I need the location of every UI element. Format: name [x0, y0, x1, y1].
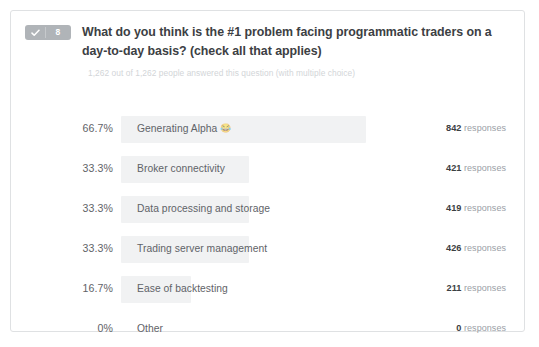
answer-label-text: Ease of backtesting	[137, 283, 228, 294]
answer-response-suffix: responses	[464, 283, 506, 293]
answer-response-suffix: responses	[464, 203, 506, 213]
answer-label-text: Trading server management	[137, 243, 267, 254]
answer-response-count: 426	[446, 243, 461, 253]
answer-response-suffix: responses	[464, 163, 506, 173]
answer-responses: 419 responses	[446, 195, 506, 222]
answer-row: 0% Other 0 responses	[11, 315, 524, 347]
answer-response-suffix: responses	[464, 123, 506, 133]
answer-responses: 211 responses	[446, 275, 506, 302]
smiley-face-icon: 😂	[220, 123, 231, 133]
answer-response-count: 842	[446, 123, 461, 133]
question-number: 8	[46, 25, 70, 40]
question-title: What do you think is the #1 problem faci…	[82, 23, 506, 60]
answer-row: 33.3% Broker connectivity 421 responses	[11, 155, 524, 195]
answer-label: Other	[137, 315, 163, 342]
question-subtitle: 1,262 out of 1,262 people answered this …	[88, 67, 506, 79]
answer-response-count: 421	[446, 163, 461, 173]
answer-row: 16.7% Ease of backtesting 211 responses	[11, 275, 524, 315]
answer-response-count: 419	[446, 203, 461, 213]
answer-label-text: Other	[137, 323, 163, 334]
question-header-row: 8 What do you think is the #1 problem fa…	[25, 23, 506, 60]
answer-percent: 16.7%	[51, 275, 113, 302]
answer-percent: 33.3%	[51, 195, 113, 222]
answer-label: Data processing and storage	[137, 195, 270, 222]
answer-response-suffix: responses	[464, 323, 506, 333]
survey-question-card: 8 What do you think is the #1 problem fa…	[10, 10, 525, 332]
check-icon	[26, 25, 45, 40]
answer-response-count: 211	[446, 283, 461, 293]
answer-label-text: Generating Alpha	[137, 123, 217, 134]
answer-label-text: Broker connectivity	[137, 163, 225, 174]
answer-row: 33.3% Data processing and storage 419 re…	[11, 195, 524, 235]
answer-responses: 426 responses	[446, 235, 506, 262]
answer-responses: 842 responses	[446, 115, 506, 142]
answer-label: Generating Alpha😂	[137, 115, 231, 142]
answer-response-suffix: responses	[464, 243, 506, 253]
question-number-badge: 8	[25, 25, 71, 40]
answer-rows: 66.7% Generating Alpha😂 842 responses 33…	[11, 115, 524, 347]
answer-responses: 421 responses	[446, 155, 506, 182]
answer-label: Broker connectivity	[137, 155, 225, 182]
answer-label: Trading server management	[137, 235, 267, 262]
answer-row: 66.7% Generating Alpha😂 842 responses	[11, 115, 524, 155]
answer-responses: 0 responses	[456, 315, 506, 342]
question-header: 8 What do you think is the #1 problem fa…	[11, 11, 524, 79]
answer-percent: 33.3%	[51, 155, 113, 182]
answer-label-text: Data processing and storage	[137, 203, 270, 214]
answer-percent: 66.7%	[51, 115, 113, 142]
answer-response-count: 0	[456, 323, 461, 333]
answer-percent: 33.3%	[51, 235, 113, 262]
answer-percent: 0%	[51, 315, 113, 342]
answer-row: 33.3% Trading server management 426 resp…	[11, 235, 524, 275]
answer-label: Ease of backtesting	[137, 275, 228, 302]
